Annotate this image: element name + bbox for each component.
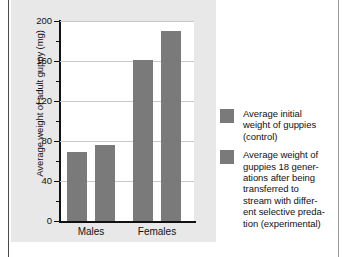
legend-label-line: guppies 18 gener-: [243, 161, 325, 172]
legend-label-line: Average weight of: [243, 149, 325, 160]
y-tick-major: [54, 141, 59, 142]
legend-label-line: ent selective preda-: [243, 206, 325, 217]
legend-label-line: (control): [243, 131, 316, 142]
y-tick-minor: [56, 201, 59, 202]
bar: [95, 145, 115, 221]
y-tick-label: 160: [24, 55, 52, 66]
bar: [161, 31, 181, 221]
left-border-rule: [8, 0, 9, 257]
bar: [133, 60, 153, 221]
x-axis-line: [59, 221, 196, 223]
legend-swatch: [220, 150, 234, 164]
y-tick-label: 80: [24, 135, 52, 146]
y-tick-major: [54, 21, 59, 22]
y-tick-minor: [56, 121, 59, 122]
legend-item: Average initialweight of guppies(control…: [220, 108, 332, 142]
x-axis-label: Females: [117, 226, 197, 237]
legend-label: Average weight ofguppies 18 gener-ations…: [243, 149, 325, 229]
legend-label: Average initialweight of guppies(control…: [243, 108, 316, 142]
bar: [67, 152, 87, 221]
y-tick-label: 0: [24, 215, 52, 226]
y-tick-minor: [56, 161, 59, 162]
y-tick-label: 200: [24, 15, 52, 26]
y-tick-label: 40: [24, 175, 52, 186]
y-tick-major: [54, 101, 59, 102]
y-tick-minor: [56, 81, 59, 82]
chart-legend: Average initialweight of guppies(control…: [220, 108, 332, 236]
y-tick-label: 120: [24, 95, 52, 106]
y-tick-major: [54, 221, 59, 222]
legend-label-line: ations after being: [243, 172, 325, 183]
y-axis-line: [59, 20, 61, 222]
legend-label-line: transferred to: [243, 183, 325, 194]
right-border-rule: [338, 0, 339, 257]
y-tick-major: [54, 181, 59, 182]
legend-swatch: [220, 109, 234, 123]
legend-label-line: weight of guppies: [243, 119, 316, 130]
legend-label-line: stream with differ-: [243, 195, 325, 206]
legend-label-line: Average initial: [243, 108, 316, 119]
gridline: [60, 21, 194, 22]
legend-item: Average weight ofguppies 18 gener-ations…: [220, 149, 332, 229]
y-tick-minor: [56, 41, 59, 42]
legend-label-line: tion (experimental): [243, 218, 325, 229]
y-tick-major: [54, 61, 59, 62]
